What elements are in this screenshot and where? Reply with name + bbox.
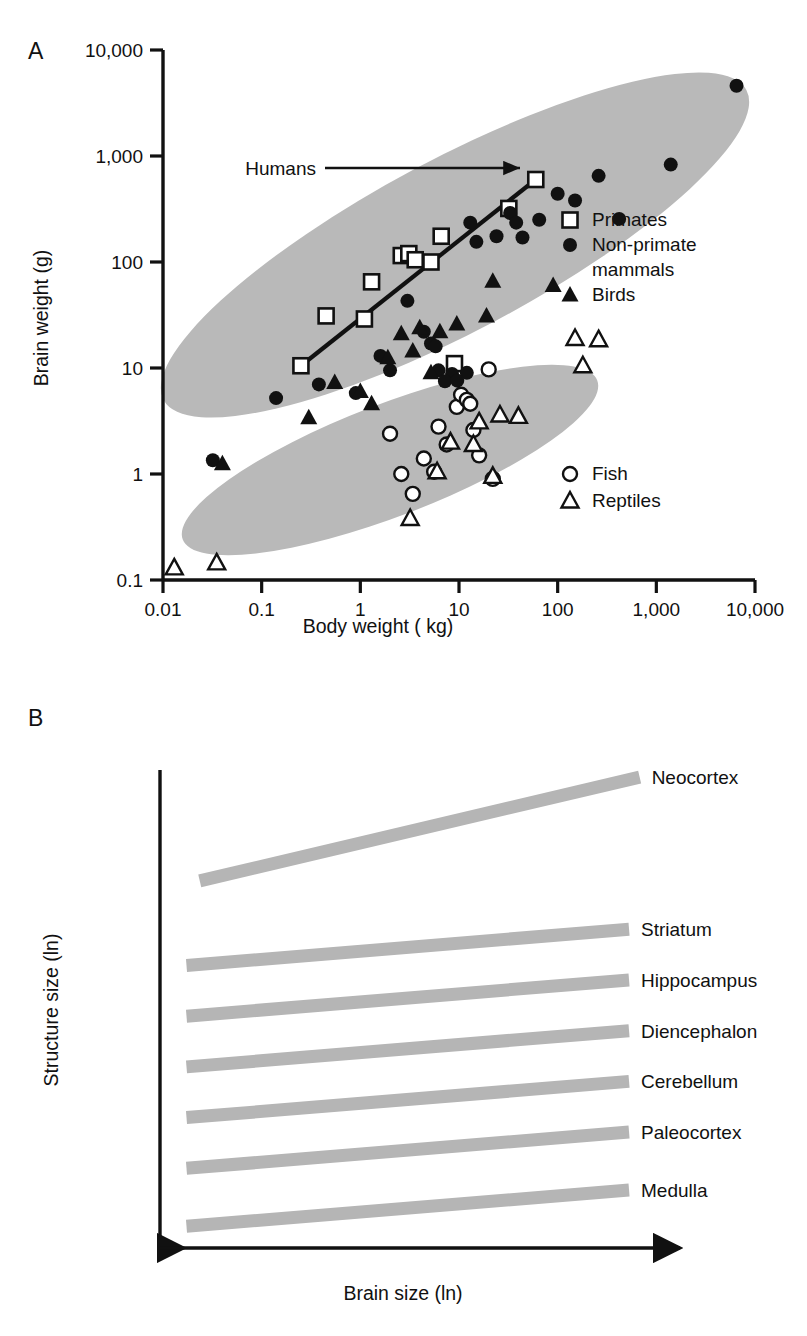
figure-root: A 0.11101001,00010,000 0.010.11101001,00…: [0, 0, 807, 1336]
data-point: [429, 339, 443, 353]
structure-labels: NeocortexStriatumHippocampusDiencephalon…: [641, 767, 757, 1201]
y-tick-label: 1,000: [95, 146, 143, 167]
data-point: [509, 216, 523, 230]
structure-label-striatum: Striatum: [641, 919, 712, 940]
data-point: [490, 229, 504, 243]
structure-label-medulla: Medulla: [641, 1180, 708, 1201]
structure-label-neocortex: Neocortex: [652, 767, 739, 788]
regression-band-striatum: [186, 923, 630, 972]
data-point: [434, 229, 449, 244]
panel-a-plot: 0.11101001,00010,000 0.010.11101001,0001…: [0, 0, 807, 670]
data-point: [357, 311, 372, 326]
filled-triangle-icon: [562, 286, 579, 302]
open-triangle-icon: [562, 492, 579, 508]
regression-band-diencephalon: [186, 1024, 630, 1073]
data-point: [319, 308, 334, 323]
structure-label-hippocampus: Hippocampus: [641, 970, 757, 991]
data-point: [383, 427, 397, 441]
y-tick-label: 0.1: [117, 570, 143, 591]
x-axis-ticks: [163, 580, 755, 593]
regression-band-medulla: [186, 1184, 630, 1233]
panel-b-plot: NeocortexStriatumHippocampusDiencephalon…: [0, 670, 807, 1336]
y-axis-ticks: [150, 50, 163, 580]
panel-b-y-axis-title: Structure size (ln): [40, 934, 62, 1087]
panel-b: B NeocortexStriatumHippocampusDiencephal…: [0, 670, 807, 1336]
y-tick-label: 10: [122, 358, 143, 379]
filled-circle-icon: [563, 238, 577, 252]
y-tick-label: 1: [132, 464, 143, 485]
x-tick-label: 0.01: [145, 599, 182, 620]
data-point: [528, 172, 543, 187]
x-tick-label: 10,000: [726, 599, 784, 620]
data-point: [463, 216, 477, 230]
x-tick-label: 1,000: [633, 599, 681, 620]
data-point: [383, 363, 397, 377]
regression-band-cerebellum: [186, 1075, 630, 1124]
data-point: [408, 252, 423, 267]
legend-label: Reptiles: [592, 490, 661, 511]
data-point: [592, 169, 606, 183]
data-point: [463, 397, 477, 411]
data-point: [664, 158, 678, 172]
panel-b-letter: B: [28, 705, 44, 732]
regression-band-hippocampus: [186, 973, 630, 1022]
structure-label-cerebellum: Cerebellum: [641, 1071, 738, 1092]
y-tick-label: 10,000: [85, 40, 143, 61]
data-point: [417, 452, 431, 466]
x-tick-label: 100: [542, 599, 574, 620]
data-point: [394, 467, 408, 481]
data-point: [400, 294, 414, 308]
data-point: [364, 274, 379, 289]
regression-band-paleocortex: [186, 1126, 630, 1175]
data-point: [568, 194, 582, 208]
data-point: [438, 374, 452, 388]
legend-label: Fish: [592, 463, 628, 484]
data-point: [590, 331, 607, 347]
legend-label: Non-primate: [592, 234, 697, 255]
data-point: [423, 255, 438, 270]
data-point: [482, 362, 496, 376]
cluster-ellipses: [123, 14, 786, 592]
data-point: [406, 487, 420, 501]
open-circle-icon: [563, 467, 577, 481]
legend-label: mammals: [592, 259, 674, 280]
panel-a: A 0.11101001,00010,000 0.010.11101001,00…: [0, 0, 807, 670]
legend-cold-blooded: FishReptiles: [562, 463, 661, 511]
x-axis-title: Body weight ( kg): [303, 615, 454, 637]
data-point: [432, 420, 446, 434]
y-axis-title: Brain weight (g): [30, 250, 52, 387]
x-axis-tick-labels: 0.010.11101001,00010,000: [145, 599, 785, 620]
structure-regression-bands: [186, 771, 641, 1233]
data-point: [269, 391, 283, 405]
data-point: [208, 554, 225, 570]
humans-annotation-label: Humans: [245, 158, 316, 179]
data-point: [300, 409, 317, 425]
panel-a-letter: A: [28, 38, 44, 65]
data-point: [469, 235, 483, 249]
legend-label: Birds: [592, 284, 635, 305]
structure-label-diencephalon: Diencephalon: [641, 1021, 757, 1042]
data-point: [730, 79, 744, 93]
data-point: [166, 559, 183, 575]
x-tick-label: 0.1: [248, 599, 274, 620]
regression-band-neocortex: [198, 771, 641, 887]
data-point: [515, 231, 529, 245]
data-point: [450, 374, 464, 388]
data-point: [567, 329, 584, 345]
legend-label: Primates: [592, 209, 667, 230]
panel-b-x-axis-title: Brain size (ln): [343, 1282, 462, 1304]
y-tick-label: 100: [111, 252, 143, 273]
data-point: [574, 357, 591, 373]
data-point: [532, 213, 546, 227]
data-point: [293, 358, 308, 373]
open-square-icon: [563, 213, 578, 228]
data-point: [312, 377, 326, 391]
data-point: [551, 187, 565, 201]
y-axis-tick-labels: 0.11101001,00010,000: [85, 40, 143, 591]
structure-label-paleocortex: Paleocortex: [641, 1122, 742, 1143]
